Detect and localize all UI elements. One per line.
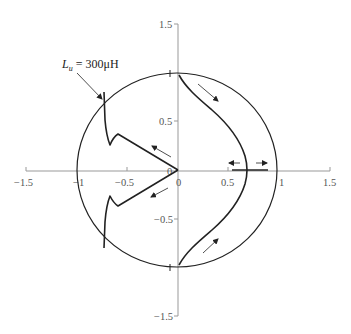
annotation-pointer-arrow (77, 73, 102, 99)
y-label-neg-1-5: −1.5 (154, 311, 173, 322)
x-label-0: 0 (176, 177, 181, 188)
curves (104, 75, 268, 265)
y-label-0-5: 0.5 (159, 116, 172, 127)
y-label-1-5: 1.5 (159, 19, 172, 30)
inductance-annotation: Lu = 300μH (61, 57, 119, 99)
annot-value: = 300μH (73, 57, 119, 71)
arrow-right-top (198, 84, 218, 101)
arrow-left-lower (151, 188, 168, 197)
x-label-1: 1 (279, 177, 284, 188)
nyquist-plot: −1.5 −1 −0.5 0 0.5 1 1.5 1.5 0.5 0 −0.5 … (0, 0, 351, 334)
arrow-right-bottom (203, 239, 218, 253)
x-label-0-5: 0.5 (221, 177, 234, 188)
x-label-1-5: 1.5 (323, 177, 336, 188)
y-label-neg-0-5: −0.5 (154, 214, 173, 225)
x-label-neg-0-5: −0.5 (115, 177, 134, 188)
left-branch-upper (104, 92, 178, 170)
x-label-neg-1-5: −1.5 (14, 177, 33, 188)
svg-text:Lu = 300μH: Lu = 300μH (61, 57, 119, 73)
